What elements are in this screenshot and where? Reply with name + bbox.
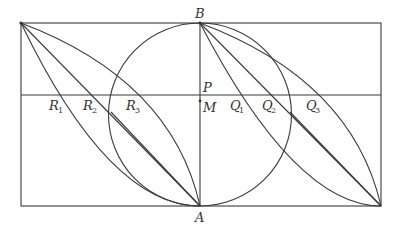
label-Q1-sub: 1: [239, 106, 244, 115]
label-Q3-sub: 3: [315, 106, 320, 115]
label-A: A: [194, 210, 204, 225]
point-M: [199, 100, 202, 103]
left-straight-line: [21, 23, 200, 206]
geometry-diagram: B A P M R 1 R 2 R 3 Q 1 Q 2 Q 3: [0, 0, 401, 230]
right-chord: [290, 112, 381, 206]
point-top-left: [19, 21, 22, 24]
label-Q2-sub: 2: [271, 106, 276, 115]
left-chord: [111, 112, 200, 206]
label-R2-sub: 2: [92, 106, 97, 115]
point-B: [198, 21, 201, 24]
label-M: M: [202, 100, 217, 115]
outer-rectangle: [21, 23, 381, 206]
label-B: B: [194, 6, 205, 21]
label-R1-sub: 1: [58, 106, 63, 115]
label-P: P: [202, 80, 212, 95]
label-R3-sub: 3: [135, 106, 140, 115]
